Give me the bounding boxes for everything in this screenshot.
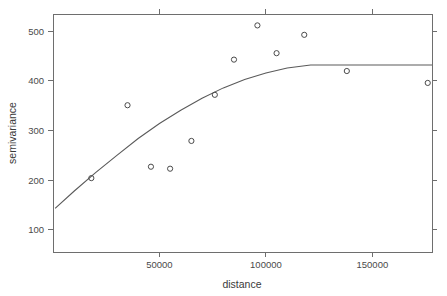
x-tick-label-150000: 150000 xyxy=(357,259,389,270)
x-tick-label-100000: 100000 xyxy=(250,259,282,270)
y-tick-label-300: 300 xyxy=(28,125,44,136)
chart-canvas: 50000100000150000 100200300400500 distan… xyxy=(0,0,447,296)
x-axis-title: distance xyxy=(222,278,261,290)
semivariogram-plot: 50000100000150000 100200300400500 distan… xyxy=(0,0,447,296)
y-tick-label-200: 200 xyxy=(28,175,44,186)
y-tick-label-500: 500 xyxy=(28,26,44,37)
x-tick-label-50000: 50000 xyxy=(146,259,172,270)
y-tick-label-100: 100 xyxy=(28,224,44,235)
y-axis-title: semivariance xyxy=(6,102,18,164)
y-tick-label-400: 400 xyxy=(28,75,44,86)
